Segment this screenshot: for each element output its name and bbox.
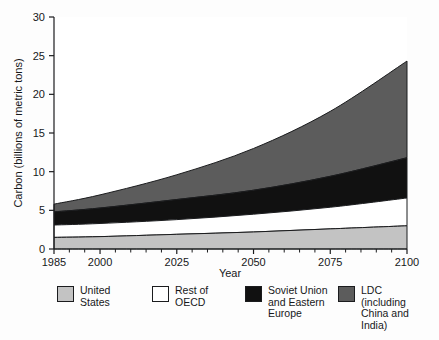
x-axis-ticks (54, 249, 407, 254)
legend-swatch-rest-of-oecd (152, 286, 169, 302)
x-axis-tick-label: 2075 (318, 256, 342, 268)
x-axis-tick-label: 2050 (241, 256, 265, 268)
x-axis-tick-label: 2000 (88, 256, 112, 268)
y-axis-tick-label: 20 (33, 88, 45, 100)
legend-item-united-states[interactable]: United States (57, 285, 110, 308)
y-axis-tick-label: 5 (39, 204, 45, 216)
y-axis-tick-labels: 051015202530 (33, 11, 45, 255)
legend-swatch-ldc (338, 286, 355, 302)
legend-item-ldc[interactable]: LDC (including China and India) (338, 285, 409, 331)
legend-label-ldc: LDC (including China and India) (361, 285, 409, 331)
chart-page: 051015202530 198520002025205020752100 Ca… (0, 0, 439, 340)
legend-swatch-united-states (57, 286, 74, 302)
y-axis-tick-label: 15 (33, 127, 45, 139)
x-axis-tick-label: 2100 (395, 256, 419, 268)
y-axis-tick-label: 0 (39, 243, 45, 255)
y-axis-tick-label: 10 (33, 166, 45, 178)
chart-legend: United States Rest of OECD Soviet Union … (0, 281, 439, 340)
y-axis-ticks (49, 17, 54, 249)
x-axis-tick-label: 2025 (165, 256, 189, 268)
legend-label-united-states: United States (80, 285, 110, 308)
y-axis-tick-label: 30 (33, 11, 45, 23)
y-axis-title: Carbon (billions of metric tons) (12, 58, 24, 207)
chart-svg: 051015202530 198520002025205020752100 Ca… (0, 0, 439, 282)
legend-item-soviet-union[interactable]: Soviet Union and Eastern Europe (245, 285, 328, 320)
y-axis-tick-label: 25 (33, 50, 45, 62)
legend-item-rest-of-oecd[interactable]: Rest of OECD (152, 285, 208, 308)
stacked-area-chart: 051015202530 198520002025205020752100 Ca… (0, 0, 439, 282)
x-axis-title: Year (219, 267, 242, 279)
legend-swatch-soviet-union (245, 286, 262, 302)
legend-label-soviet-union: Soviet Union and Eastern Europe (268, 285, 328, 320)
x-axis-tick-label: 1985 (42, 256, 66, 268)
legend-label-rest-of-oecd: Rest of OECD (175, 285, 208, 308)
